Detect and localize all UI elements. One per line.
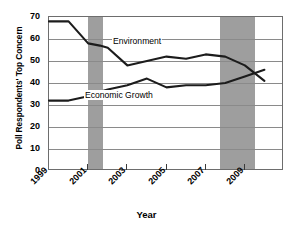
y-tick-label-70: 70 <box>18 12 40 21</box>
x-tick-mark-2009 <box>244 164 245 170</box>
series-line-environment <box>49 21 264 80</box>
line-chart: Poll Respondents' Top Concern 7060504030… <box>0 0 293 228</box>
y-tick-label-30: 30 <box>18 100 40 109</box>
series-label-economic-growth: Economic Growth <box>84 90 154 100</box>
x-axis-title: Year <box>0 209 293 220</box>
y-tick-label-20: 20 <box>18 122 40 131</box>
y-tick-label-10: 10 <box>18 144 40 153</box>
series-label-environment: Environment <box>112 36 162 46</box>
x-tick-mark-2005 <box>166 164 167 170</box>
y-tick-label-40: 40 <box>18 78 40 87</box>
x-tick-mark-2007 <box>205 164 206 170</box>
series-line-economic-growth <box>49 70 264 101</box>
y-tick-label-50: 50 <box>18 56 40 65</box>
x-tick-mark-2003 <box>126 164 127 170</box>
x-tick-mark-2001 <box>87 164 88 170</box>
y-tick-label-60: 60 <box>18 34 40 43</box>
